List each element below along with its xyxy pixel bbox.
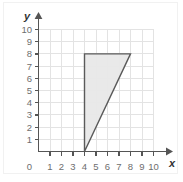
y-tick-label-6: 6 xyxy=(27,73,32,84)
x-tick-label-8: 8 xyxy=(128,161,133,172)
y-tick-label-1: 1 xyxy=(27,134,32,145)
x-tick-label-6: 6 xyxy=(105,161,110,172)
x-tick-label-1: 1 xyxy=(47,161,52,172)
y-tick-label-8: 8 xyxy=(27,48,32,59)
y-tick-label-9: 9 xyxy=(27,36,32,47)
origin-label: 0 xyxy=(27,161,32,172)
x-tick-label-7: 7 xyxy=(116,161,121,172)
y-axis-label: y xyxy=(23,10,31,22)
y-tick-label-5: 5 xyxy=(27,85,32,96)
y-axis-arrowhead xyxy=(35,12,43,19)
y-tick-label-4: 4 xyxy=(27,97,32,108)
y-tick-label-10: 10 xyxy=(21,24,32,35)
x-axis-label: x xyxy=(168,157,176,169)
y-tick-label-2: 2 xyxy=(27,122,32,133)
coordinate-plane-figure: 10 9 8 7 6 5 4 3 2 1 0 1 2 3 4 5 6 7 8 9… xyxy=(0,0,183,182)
x-axis-arrowhead xyxy=(166,148,173,156)
x-tick-label-9: 9 xyxy=(139,161,144,172)
x-axis-tick-labels: 1 2 3 4 5 6 7 8 9 10 xyxy=(47,161,158,172)
plot-svg: 10 9 8 7 6 5 4 3 2 1 0 1 2 3 4 5 6 7 8 9… xyxy=(0,0,183,182)
x-tick-label-10: 10 xyxy=(148,161,159,172)
x-tick-label-2: 2 xyxy=(59,161,64,172)
x-tick-label-5: 5 xyxy=(93,161,98,172)
x-tick-label-3: 3 xyxy=(70,161,75,172)
y-axis-tick-labels: 10 9 8 7 6 5 4 3 2 1 xyxy=(21,24,32,145)
x-tick-label-4: 4 xyxy=(82,161,87,172)
y-tick-label-7: 7 xyxy=(27,61,32,72)
y-tick-label-3: 3 xyxy=(27,109,32,120)
